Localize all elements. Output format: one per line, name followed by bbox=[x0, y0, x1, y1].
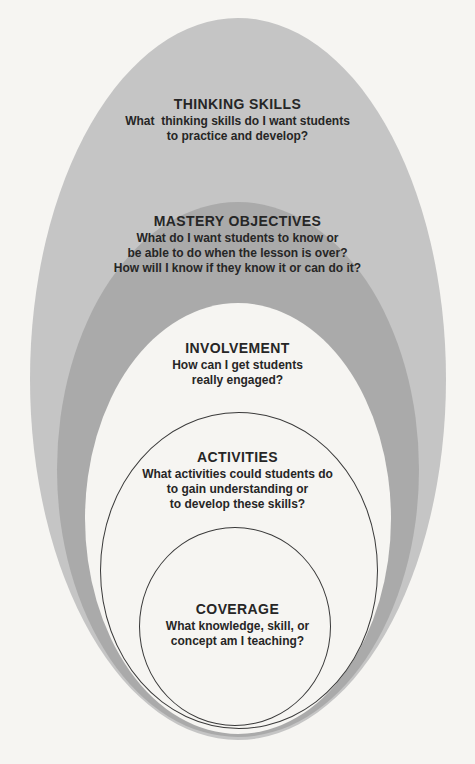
coverage-label: COVERAGE What knowledge, skill, or conce… bbox=[58, 601, 418, 649]
thinking-skills-label: THINKING SKILLS What thinking skills do … bbox=[58, 96, 418, 144]
mastery-objectives-title: MASTERY OBJECTIVES bbox=[58, 213, 418, 229]
involvement-question: How can I get students really engaged? bbox=[58, 358, 418, 388]
mastery-objectives-label: MASTERY OBJECTIVES What do I want studen… bbox=[58, 213, 418, 276]
mastery-objectives-question: What do I want students to know or be ab… bbox=[58, 231, 418, 276]
coverage-question: What knowledge, skill, or concept am I t… bbox=[58, 619, 418, 649]
thinking-skills-question: What thinking skills do I want students … bbox=[58, 114, 418, 144]
nested-ovals-diagram: THINKING SKILLS What thinking skills do … bbox=[0, 0, 475, 764]
coverage-title: COVERAGE bbox=[58, 601, 418, 617]
activities-question: What activities could students do to gai… bbox=[58, 467, 418, 512]
thinking-skills-title: THINKING SKILLS bbox=[58, 96, 418, 112]
activities-label: ACTIVITIES What activities could student… bbox=[58, 449, 418, 512]
involvement-label: INVOLVEMENT How can I get students reall… bbox=[58, 340, 418, 388]
activities-title: ACTIVITIES bbox=[58, 449, 418, 465]
involvement-title: INVOLVEMENT bbox=[58, 340, 418, 356]
